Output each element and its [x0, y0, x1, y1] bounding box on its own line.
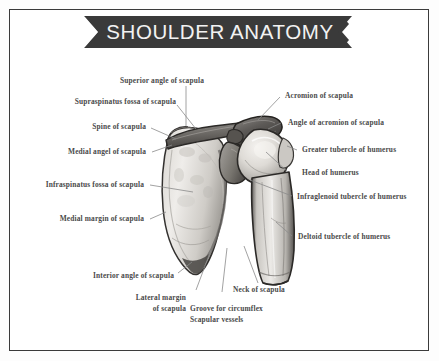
label-groove-for-circumflex-scapular-vessels: Groove for circumflex Scapular vessels: [190, 303, 290, 325]
label-spine-of-scapula: Spine of scapula: [56, 122, 146, 132]
label-infraspinatus-fossa-of-scapula: Infraspinatus fossa of scapula: [22, 180, 144, 190]
label-medial-margin-of-scapula: Medial margin of scapula: [32, 214, 144, 224]
label-acromion-of-scapula: Acromion of scapula: [285, 91, 353, 101]
label-medial-angel-of-scapula: Medial angel of scapula: [30, 147, 146, 157]
label-deltoid-tubercle-of-humerus: Deltoid tubercle of humerus: [298, 232, 390, 242]
label-supraspinatus-fossa-of-scapula: Supraspinatus fossa of scapula: [36, 97, 176, 107]
label-lateral-margin-line1: Lateral margin: [108, 292, 186, 303]
label-superior-angle-of-scapula: Superior angle of scapula: [86, 76, 204, 86]
label-greater-tubercle-of-humerus: Greater tubercle of humerus: [302, 145, 396, 155]
label-infraglenoid-tubercle-of-humerus: Infraglenoid tubercle of humerus: [297, 192, 407, 202]
label-lateral-margin-line2: of scapula: [108, 303, 186, 314]
label-lateral-margin-of-scapula: Lateral margin of scapula: [108, 292, 186, 314]
label-groove-line1: Groove for circumflex: [190, 303, 290, 314]
label-groove-line2: Scapular vessels: [190, 314, 290, 325]
page-title: SHOULDER ANATOMY: [84, 16, 356, 48]
label-angle-of-acromion-of-scapula: Angle of acromion of scapula: [288, 118, 384, 128]
label-interior-angle-of-scapula: Interior angle of scapula: [72, 271, 174, 281]
label-head-of-humerus: Head of humerus: [302, 168, 359, 178]
title-banner: SHOULDER ANATOMY: [84, 16, 356, 48]
label-neck-of-scapula: Neck of scapula: [233, 285, 285, 295]
shoulder-anatomy-poster: SHOULDER ANATOMY Superior angle of scapu…: [0, 0, 439, 361]
